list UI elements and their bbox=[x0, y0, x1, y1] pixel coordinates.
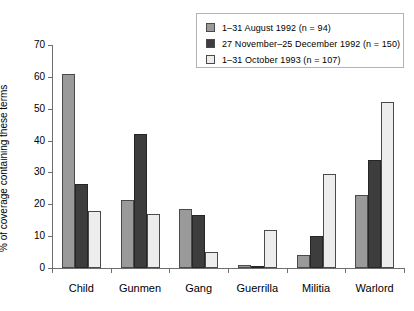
bar bbox=[205, 252, 218, 268]
y-tick-label: 0 bbox=[39, 263, 45, 273]
bar bbox=[192, 215, 205, 268]
x-tick-mark bbox=[287, 268, 288, 273]
bar bbox=[368, 160, 381, 268]
bar bbox=[297, 255, 310, 268]
x-tick-mark bbox=[111, 268, 112, 273]
y-tick-mark bbox=[48, 204, 52, 205]
legend-swatch-icon bbox=[206, 23, 215, 32]
x-tick-mark bbox=[228, 268, 229, 273]
bar bbox=[355, 195, 368, 268]
y-tick-mark bbox=[48, 45, 52, 46]
x-category-label: Militia bbox=[302, 282, 330, 294]
bar bbox=[179, 209, 192, 268]
y-tick-label: 30 bbox=[34, 167, 45, 177]
y-tick-label: 50 bbox=[34, 104, 45, 114]
x-tick-mark bbox=[345, 268, 346, 273]
y-tick-label: 60 bbox=[34, 72, 45, 82]
bar-group bbox=[355, 45, 394, 268]
plot-area: 010203040506070 bbox=[52, 45, 404, 268]
y-tick-mark bbox=[48, 141, 52, 142]
bar-group bbox=[121, 45, 160, 268]
x-category-label: Gang bbox=[185, 282, 212, 294]
y-tick-mark bbox=[48, 236, 52, 237]
bar bbox=[121, 200, 134, 268]
bar-group bbox=[62, 45, 101, 268]
bar-group bbox=[179, 45, 218, 268]
bar bbox=[238, 265, 251, 268]
bar bbox=[75, 184, 88, 268]
bar bbox=[88, 211, 101, 268]
x-category-label: Guerrilla bbox=[237, 282, 279, 294]
bar bbox=[62, 74, 75, 268]
y-tick-mark bbox=[48, 172, 52, 173]
bar bbox=[134, 134, 147, 268]
y-tick-mark bbox=[48, 109, 52, 110]
legend-entry-label: 1–31 August 1992 (n = 94) bbox=[222, 23, 331, 33]
legend-entry: 1–31 August 1992 (n = 94) bbox=[206, 20, 403, 35]
x-category-label: Gunmen bbox=[119, 282, 161, 294]
y-tick-label: 70 bbox=[34, 40, 45, 50]
bar-group bbox=[238, 45, 277, 268]
y-axis-title: % of coverage containing these terms bbox=[0, 52, 9, 252]
bar-group bbox=[297, 45, 336, 268]
x-tick-mark bbox=[52, 268, 53, 273]
bar bbox=[381, 102, 394, 268]
y-tick-mark bbox=[48, 77, 52, 78]
y-tick-label: 40 bbox=[34, 136, 45, 146]
bar bbox=[323, 174, 336, 268]
y-tick-label: 10 bbox=[34, 231, 45, 241]
bar bbox=[264, 230, 277, 268]
bar bbox=[251, 266, 264, 268]
y-tick-label: 20 bbox=[34, 199, 45, 209]
bar bbox=[310, 236, 323, 268]
bar bbox=[147, 214, 160, 268]
x-tick-mark bbox=[169, 268, 170, 273]
x-category-label: Child bbox=[69, 282, 94, 294]
x-tick-mark bbox=[404, 268, 405, 273]
x-category-label: Warlord bbox=[356, 282, 394, 294]
